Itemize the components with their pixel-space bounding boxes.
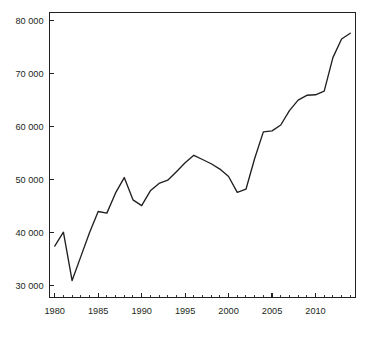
x-axis-major-ticks bbox=[55, 293, 316, 298]
x-tick-label: 1995 bbox=[175, 306, 195, 316]
y-axis-tick-labels: 30 00040 00050 00060 00070 00080 000 bbox=[15, 16, 43, 291]
y-tick-label: 80 000 bbox=[15, 16, 43, 26]
y-tick-label: 60 000 bbox=[15, 122, 43, 132]
x-tick-label: 1980 bbox=[44, 306, 64, 316]
chart-canvas: 30 00040 00050 00060 00070 00080 000 198… bbox=[0, 0, 367, 338]
data-series-line bbox=[55, 33, 351, 280]
x-axis-tick-labels: 1980198519901995200020052010 bbox=[44, 306, 325, 316]
line-chart-figure: 30 00040 00050 00060 00070 00080 000 198… bbox=[0, 0, 367, 338]
x-tick-label: 2000 bbox=[218, 306, 238, 316]
y-axis-ticks bbox=[50, 20, 55, 285]
y-tick-label: 70 000 bbox=[15, 69, 43, 79]
x-tick-label: 2010 bbox=[305, 306, 325, 316]
y-tick-label: 40 000 bbox=[15, 228, 43, 238]
plot-frame bbox=[50, 13, 356, 298]
x-tick-label: 1990 bbox=[131, 306, 151, 316]
y-tick-label: 30 000 bbox=[15, 281, 43, 291]
x-tick-label: 1985 bbox=[88, 306, 108, 316]
x-tick-label: 2005 bbox=[262, 306, 282, 316]
y-tick-label: 50 000 bbox=[15, 175, 43, 185]
